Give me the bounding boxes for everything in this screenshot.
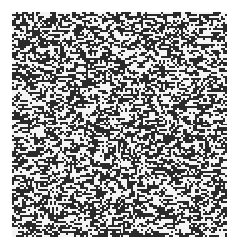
noise-pattern bbox=[12, 12, 227, 237]
